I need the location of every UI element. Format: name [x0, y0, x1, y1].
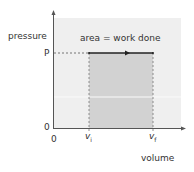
pv-diagram	[0, 0, 194, 172]
work-area	[89, 53, 153, 128]
x-axis-label: volume	[141, 153, 174, 163]
v-initial-label: vi	[85, 131, 92, 145]
x-origin-label: 0	[51, 134, 57, 144]
x-axis-arrow-icon	[181, 127, 186, 131]
y-axis-label: pressure	[8, 31, 47, 41]
v-final-subscript: f	[154, 136, 156, 143]
v-final-label: vf	[149, 131, 156, 145]
pressure-label: P	[44, 48, 49, 58]
y-origin-label: 0	[44, 122, 50, 132]
annotation: area = work done	[80, 33, 160, 43]
y-axis-arrow-icon	[52, 10, 56, 15]
v-initial-subscript: i	[90, 136, 92, 143]
